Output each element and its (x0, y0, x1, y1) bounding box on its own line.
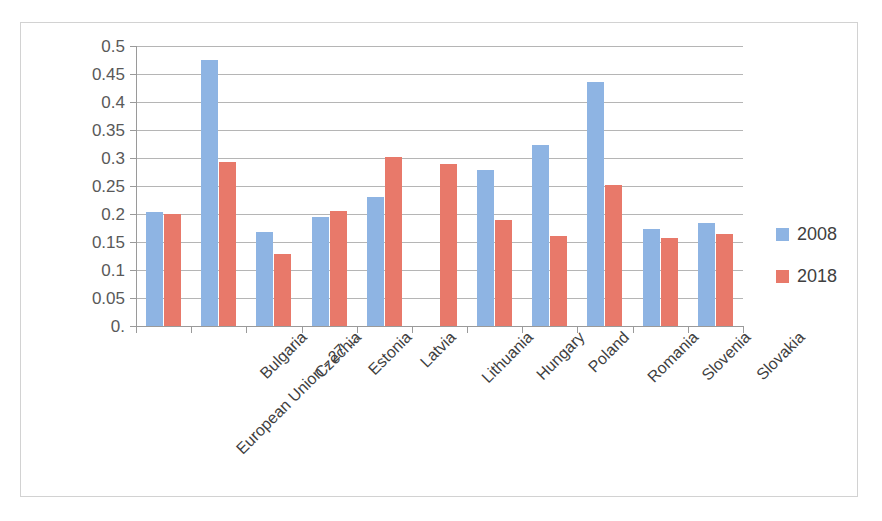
legend-label: 2008 (797, 225, 837, 243)
bar-2018[interactable] (440, 164, 457, 326)
y-axis-tick-label: 0.5 (25, 38, 125, 55)
y-axis-labels: 0.50.450.40.350.30.250.20.150.10.050. (21, 23, 125, 503)
bar-group (136, 46, 191, 326)
x-axis-category-label: Slovenia (699, 329, 754, 384)
bar-group (467, 46, 522, 326)
x-axis-labels: European Union - 27 ...BulgariaCzechiaEs… (136, 329, 756, 479)
y-axis-tick-label: 0.1 (25, 262, 125, 279)
bar-2008[interactable] (256, 232, 273, 326)
chart-container: 0.50.450.40.350.30.250.20.150.10.050. Eu… (20, 22, 858, 497)
x-axis-category-label: Czechia (312, 329, 364, 381)
y-axis-tick-label: 0.2 (25, 206, 125, 223)
bar-2018[interactable] (330, 211, 347, 326)
y-axis-tick-label: 0.05 (25, 290, 125, 307)
bar-2018[interactable] (716, 234, 733, 326)
bar-2018[interactable] (495, 220, 512, 326)
gridline (136, 326, 743, 327)
bar-2008[interactable] (477, 170, 494, 326)
bar-group (688, 46, 743, 326)
plot-area (136, 46, 743, 326)
y-axis-tick-label: 0. (25, 318, 125, 335)
y-axis-tick-label: 0.35 (25, 122, 125, 139)
x-axis-category-label: Lithuania (479, 329, 536, 386)
x-axis-category-label: Latvia (418, 329, 460, 371)
bar-2008[interactable] (698, 223, 715, 326)
bar-2018[interactable] (661, 238, 678, 326)
legend-item[interactable]: 2018 (776, 255, 856, 297)
bar-2008[interactable] (587, 82, 604, 326)
bar-2008[interactable] (532, 145, 549, 326)
bar-group (577, 46, 632, 326)
x-axis-category-label: Bulgaria (257, 329, 310, 382)
y-axis-tick-label: 0.3 (25, 150, 125, 167)
y-axis-tick-label: 0.45 (25, 66, 125, 83)
bar-2018[interactable] (274, 254, 291, 326)
bar-2008[interactable] (201, 60, 218, 326)
x-axis-category-label: Poland (585, 329, 632, 376)
bar-group (191, 46, 246, 326)
bar-group (302, 46, 357, 326)
legend-swatch-icon (776, 270, 789, 283)
y-axis-tick-label: 0.15 (25, 234, 125, 251)
x-axis-category-label: Slovakia (754, 329, 808, 383)
legend-swatch-icon (776, 228, 789, 241)
bar-group (412, 46, 467, 326)
bar-group (357, 46, 412, 326)
bar-2008[interactable] (367, 197, 384, 326)
bar-2018[interactable] (550, 236, 567, 326)
bar-2018[interactable] (219, 162, 236, 326)
legend-item[interactable]: 2008 (776, 213, 856, 255)
legend-label: 2018 (797, 267, 837, 285)
y-axis-tick-label: 0.4 (25, 94, 125, 111)
bar-group (633, 46, 688, 326)
bar-2008[interactable] (643, 229, 660, 326)
bar-2018[interactable] (385, 157, 402, 326)
y-axis-tick-label: 0.25 (25, 178, 125, 195)
bar-group (246, 46, 301, 326)
bar-2008[interactable] (146, 212, 163, 326)
bar-group (522, 46, 577, 326)
x-axis-category-label: Romania (645, 329, 702, 386)
x-axis-category-label: Hungary (533, 329, 587, 383)
chart-legend: 20082018 (776, 213, 856, 297)
x-axis-category-label: Estonia (366, 329, 415, 378)
bar-2018[interactable] (605, 185, 622, 326)
bar-2008[interactable] (312, 217, 329, 326)
bar-2018[interactable] (164, 214, 181, 326)
